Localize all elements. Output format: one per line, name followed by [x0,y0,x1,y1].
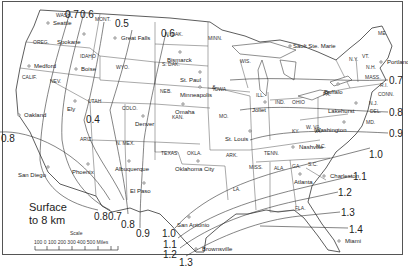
state-label: TEXAS [161,150,178,156]
city-marker-icon [188,216,190,218]
map-title-line1: Surface [29,201,67,214]
state-label: LA. [233,186,241,192]
state-label: MINN. [208,35,222,41]
state-label: N.Y. [349,56,358,62]
city-marker-icon [337,83,339,85]
state-label: CONN. [378,91,394,97]
city-marker-icon [75,68,77,70]
state-label: NEB. [160,88,172,94]
city-marker-icon [47,22,49,24]
state-label: MASS. [365,74,381,80]
city-marker-icon [143,182,145,184]
city-marker-icon [323,175,325,177]
isoline-value: 1.3 [179,257,193,268]
state-label: NEV. [50,78,61,84]
state-label: GA. [292,163,301,169]
city-label: Brownsville [202,246,233,252]
map-title-line2: to 8 km [29,214,67,227]
city-marker-icon [74,100,76,102]
city-marker-icon [87,163,89,165]
city-marker-icon [179,51,181,53]
isoline-value: 1.0 [369,149,383,160]
city-label: Minneapolis [180,92,212,98]
state-label: ME. [378,30,387,36]
state-label: KY. [292,128,299,134]
city-label: & [212,84,216,90]
state-label: UTAH [88,98,102,104]
state-label: IDAHO [80,53,96,59]
city-marker-icon [128,160,130,162]
city-label: Ely [67,106,75,112]
state-label: DEL. [370,108,381,114]
state-label: N.H. [366,64,376,70]
isoline-value-labels: 0.70.60.50.60.40.80.80.70.80.91.01.11.21… [1,9,403,268]
city-marker-icon [249,130,251,132]
isoline-value: 0.4 [86,114,100,125]
city-marker-icon [195,248,197,250]
city-label: Buffalo [324,89,343,95]
city-label: Bismarck [167,57,193,63]
city-marker-icon [338,240,340,242]
isoline-value: 1.3 [341,207,355,218]
state-label: ARK. [226,152,238,158]
city-label: Oklahoma City [175,166,214,172]
city-marker-icon [114,37,116,39]
city-marker-icon [289,45,291,47]
state-label: ARIZ. [80,136,93,142]
isoline-value: 0.8 [94,211,108,222]
city-label: Miami [345,238,361,244]
isoline-value: 0.8 [389,107,403,118]
city-label: Washington [315,127,346,133]
city-label: El Paso [130,188,151,194]
city-label: St. Louis [225,136,248,142]
city-label: San Diego [18,172,47,178]
isoline-map: WASH.MONT.OREG.IDAHOWYO.CALIF.NEV.UTAHCO… [0,0,408,274]
city-label: St. Paul [180,77,201,83]
isoline-value: 0.7 [389,75,403,86]
isoline-value: 0.5 [115,18,129,29]
city-label: Sault Ste. Marie [293,43,336,49]
city-label: Portland [387,59,408,65]
city-label: Medford [34,63,56,69]
state-label: VT. [362,53,369,59]
city-label: Spokane [57,39,81,45]
isoline-value: 0.8 [121,219,135,230]
city-label: Phoenix [72,169,94,175]
city-label: Great Falls [121,35,150,41]
city-label: Nashville [299,144,324,150]
city-label: Seattle [53,20,72,26]
state-label: ILL. [256,92,264,98]
isoline-value: 1.4 [349,224,363,235]
state-label: S.C. [308,161,318,167]
isoline-value: 0.6 [80,9,94,20]
city-label: Boise [81,66,97,72]
city-marker-icon [142,115,144,117]
city-marker-icon [355,102,357,104]
city-marker-icon [47,166,49,168]
map-title: Surface to 8 km [29,201,67,227]
isoline-value: 1.2 [338,187,352,198]
isoline-value: 0.8 [1,133,15,144]
state-label: R.I. [380,82,388,88]
city-label: Oakland [24,112,46,118]
city-label: Lakehurst [328,108,355,114]
state-label: WYO. [116,64,129,70]
state-label: WIS. [240,58,251,64]
city-label: Albuquerque [115,166,150,172]
city-marker-icon [292,146,294,148]
city-label: Omaha [175,109,195,115]
state-label: TENN. [264,150,279,156]
isoline-value: 0.9 [389,128,403,139]
isoline-value: 1.1 [353,171,367,182]
state-label: OREG. [33,39,49,45]
city-label: Denver [135,121,154,127]
state-label: COLO. [122,105,138,111]
city-marker-icon [264,101,266,103]
state-label: N. MEX. [116,140,135,146]
city-marker-icon [380,61,382,63]
city-marker-icon [299,173,301,175]
isoline-value: 0.9 [136,228,150,239]
isoline-value: 0.7 [65,9,79,20]
city-marker-icon [18,114,20,116]
city-label: Joliet [252,107,266,113]
